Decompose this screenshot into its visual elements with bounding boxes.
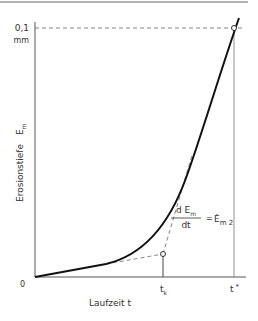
y-axis-title: Erosionstiefe Em (15, 123, 27, 202)
derivative-annotation: d Em dt = Ėm 2 (171, 205, 233, 230)
erosion-curve (35, 18, 239, 277)
svg-text:=: = (206, 214, 213, 223)
x-axis-title: Laufzeit t (89, 298, 132, 308)
tk-point (161, 252, 166, 257)
y-zero-label: 0 (20, 280, 25, 289)
tstar-label: t* (230, 283, 240, 294)
svg-text:dt: dt (181, 220, 191, 230)
svg-text:Ėm 2: Ėm 2 (214, 214, 233, 227)
tstar-point (232, 26, 237, 31)
tk-label: tk (160, 284, 168, 296)
svg-text:d Em: d Em (176, 205, 196, 217)
svg-text:Erosionstiefe Em: Erosionstiefe Em (15, 123, 27, 202)
erosion-chart: 0,1 mm 0 Erosionstiefe Em tk t* Laufzeit… (0, 0, 258, 321)
y-unit-label: mm (13, 36, 29, 45)
y-top-label: 0,1 (15, 23, 29, 33)
